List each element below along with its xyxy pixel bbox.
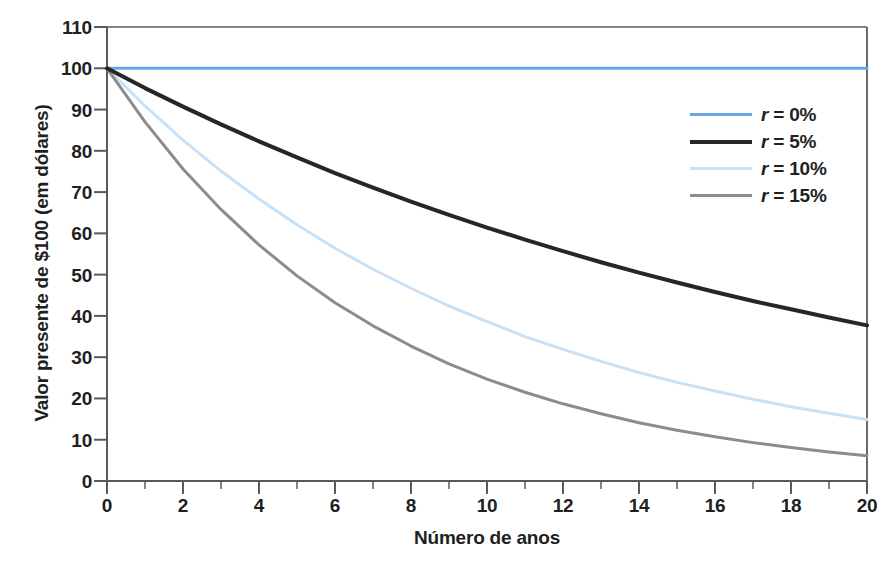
x-axis-tick-label: 20 bbox=[837, 496, 889, 515]
x-axis-tick-label: 18 bbox=[761, 496, 821, 515]
legend-item-label: r = 0% bbox=[761, 104, 816, 126]
legend-rate-value: = 15% bbox=[768, 185, 826, 206]
legend-item: r = 5% bbox=[690, 128, 827, 155]
x-axis-title: Número de anos bbox=[107, 527, 867, 549]
y-axis-tick-label: 50 bbox=[30, 266, 92, 285]
x-axis-tick-label: 10 bbox=[457, 496, 517, 515]
legend-item: r = 0% bbox=[690, 101, 827, 128]
y-axis-tick-label: 80 bbox=[30, 142, 92, 161]
legend: r = 0%r = 5%r = 10%r = 15% bbox=[690, 101, 827, 209]
legend-rate-value: = 0% bbox=[768, 104, 816, 125]
legend-item: r = 10% bbox=[690, 155, 827, 182]
plot-canvas bbox=[0, 0, 889, 571]
y-axis-tick-label: 40 bbox=[30, 307, 92, 326]
legend-swatch-line bbox=[690, 167, 752, 170]
x-axis-tick-label: 2 bbox=[153, 496, 213, 515]
y-axis-tick-label: 30 bbox=[30, 348, 92, 367]
legend-rate-value: = 5% bbox=[768, 131, 816, 152]
legend-swatch-line bbox=[690, 113, 752, 116]
y-axis-tick-label: 0 bbox=[30, 472, 92, 491]
legend-item-label: r = 5% bbox=[761, 131, 816, 153]
legend-rate-value: = 10% bbox=[768, 158, 826, 179]
y-axis-tick-label: 90 bbox=[30, 101, 92, 120]
y-axis-tick-label: 100 bbox=[30, 59, 92, 78]
legend-swatch-line bbox=[690, 140, 752, 144]
y-axis-tick-label: 60 bbox=[30, 224, 92, 243]
legend-item-label: r = 15% bbox=[761, 185, 827, 207]
y-axis-tick-label: 10 bbox=[30, 431, 92, 450]
x-axis-tick-label: 0 bbox=[77, 496, 137, 515]
present-value-chart: Valor presente de $100 (em dólares) Núme… bbox=[0, 0, 889, 571]
x-axis-tick-label: 8 bbox=[381, 496, 441, 515]
y-axis-tick-label: 110 bbox=[30, 18, 92, 37]
legend-item: r = 15% bbox=[690, 182, 827, 209]
y-axis-tick-label: 20 bbox=[30, 389, 92, 408]
y-axis-tick-label: 70 bbox=[30, 183, 92, 202]
x-axis-tick-label: 16 bbox=[685, 496, 745, 515]
x-axis-tick-label: 6 bbox=[305, 496, 365, 515]
x-axis-tick-label: 14 bbox=[609, 496, 669, 515]
legend-item-label: r = 10% bbox=[761, 158, 827, 180]
x-axis-tick-label: 4 bbox=[229, 496, 289, 515]
x-axis-tick-label: 12 bbox=[533, 496, 593, 515]
legend-swatch-line bbox=[690, 194, 752, 197]
